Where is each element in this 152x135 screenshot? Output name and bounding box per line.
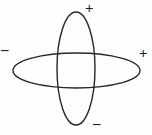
phase-sign-right: + xyxy=(139,46,148,61)
lobe-shapes-svg xyxy=(0,0,152,135)
vertical-lobe-ellipse xyxy=(57,12,95,125)
phase-sign-bottom: – xyxy=(93,116,101,131)
orbital-lobe-diagram: + + – – xyxy=(0,0,152,135)
phase-sign-top: + xyxy=(85,1,94,16)
horizontal-lobe-ellipse xyxy=(13,53,140,88)
phase-sign-left: – xyxy=(1,42,9,57)
